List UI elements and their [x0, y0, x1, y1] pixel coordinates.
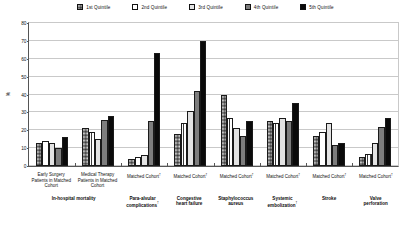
legend-item-3[interactable]: 3rd Quintile [189, 4, 223, 10]
legend-item-4[interactable]: 4th Quintile [245, 4, 278, 10]
y-tick-label: 70 [21, 38, 26, 43]
x-axis-label-line1: Matched Cohort† [359, 174, 393, 179]
legend-item-5[interactable]: 5th Quintile [300, 4, 333, 10]
x-axis-label-line1: Matched Cohort† [313, 174, 347, 179]
group-label-line1: In-hospital mortality [52, 196, 96, 201]
bar-group [167, 23, 213, 166]
group-label-line2: aureus [228, 201, 243, 206]
x-axis-label: Matched Cohort† [121, 172, 167, 189]
chart-legend: 1st Quintile2nd Quintile3rd Quintile4th … [0, 4, 411, 10]
legend-swatch-icon [132, 4, 138, 10]
legend-label: 4th Quintile [254, 5, 278, 10]
plot-area: 01020304050607080 [28, 22, 399, 167]
legend-item-1[interactable]: 1st Quintile [77, 4, 110, 10]
x-axis-group-label: Para-alvularcomplications† [119, 196, 166, 208]
bar-group [75, 23, 121, 166]
legend-label: 3rd Quintile [198, 5, 223, 10]
legend-swatch-icon [77, 4, 83, 10]
bar-group [306, 23, 352, 166]
x-axis-label: Medical TherapyPatients in MatchedCohort [74, 172, 120, 189]
x-axis-group-label: Congestiveheart failure [166, 196, 213, 208]
x-axis-label: Matched Cohort† [167, 172, 213, 189]
bar[interactable] [62, 137, 68, 166]
x-axis-label-line2: Patients in Matched [31, 178, 71, 183]
group-label-line1: Congestive [177, 196, 202, 201]
x-axis-label: Matched Cohort† [353, 172, 399, 189]
y-tick-label: 50 [21, 74, 26, 79]
bar[interactable] [154, 53, 160, 166]
y-tick-label: 60 [21, 56, 26, 61]
dagger-icon: † [296, 201, 298, 205]
legend-label: 1st Quintile [86, 5, 110, 10]
bar[interactable] [200, 41, 206, 166]
legend-swatch-icon [189, 4, 195, 10]
y-tick-label: 80 [21, 21, 26, 26]
group-label-line1: Systemic [272, 196, 292, 201]
bar[interactable] [385, 118, 391, 166]
y-tick-label: 40 [21, 92, 26, 97]
x-axis-label-line1: Medical Therapy [81, 172, 114, 177]
legend-label: 2nd Quintile [141, 5, 167, 10]
x-axis-label: Early SurgeryPatients in MatchedCohort [28, 172, 74, 189]
x-axis-label-line1: Early Surgery [38, 172, 65, 177]
bar-group [260, 23, 306, 166]
bar-groups [29, 23, 398, 166]
bar[interactable] [338, 143, 344, 166]
group-label-line1: Stroke [322, 196, 336, 201]
group-label-line2: heart failure [176, 201, 202, 206]
group-label-line2: embolization† [268, 203, 298, 208]
y-tick-mark [27, 166, 29, 167]
group-label-line1: Para-alvular [129, 196, 155, 201]
legend-swatch-icon [300, 4, 306, 10]
x-axis-label: Matched Cohort† [260, 172, 306, 189]
x-axis-group-label: Stroke [306, 196, 353, 208]
dagger-icon: † [298, 172, 300, 176]
group-label-line1: Valve [370, 196, 382, 201]
y-tick-label: 10 [21, 146, 26, 151]
plot-wrapper: % 01020304050607080 [0, 18, 411, 170]
bar-group [121, 23, 167, 166]
group-label-line2: complications† [126, 203, 159, 208]
dagger-icon: † [391, 172, 393, 176]
x-axis-label-line1: Matched Cohort† [127, 174, 161, 179]
x-axis-label: Matched Cohort† [214, 172, 260, 189]
x-axis-group-label: Staphylococcusaureus [213, 196, 260, 208]
x-axis-label-line3: Cohort [91, 183, 105, 188]
x-axis-labels: Early SurgeryPatients in MatchedCohortMe… [28, 172, 399, 189]
x-axis-label: Matched Cohort† [306, 172, 352, 189]
bar-chart: 1st Quintile2nd Quintile3rd Quintile4th … [0, 0, 411, 225]
y-tick-label: 20 [21, 128, 26, 133]
x-axis-label-line2: Patients in Matched [78, 178, 118, 183]
x-axis-label-line1: Matched Cohort† [173, 174, 207, 179]
group-label-line1: Staphylococcus [218, 196, 253, 201]
bar-group [352, 23, 398, 166]
dagger-icon: † [205, 172, 207, 176]
y-tick-label: 30 [21, 110, 26, 115]
x-axis-label-line1: Matched Cohort† [266, 174, 300, 179]
dagger-icon: † [252, 172, 254, 176]
bar[interactable] [292, 103, 298, 166]
x-axis-group-label: Systemicembolization† [259, 196, 306, 208]
bar[interactable] [246, 121, 252, 166]
y-axis-title: % [6, 92, 11, 96]
legend-item-2[interactable]: 2nd Quintile [132, 4, 167, 10]
x-axis-group-labels: In-hospital mortalityPara-alvularcomplic… [28, 196, 399, 208]
x-axis-label-line1: Matched Cohort† [220, 174, 254, 179]
x-axis-group-label: Valveperforation [352, 196, 399, 208]
dagger-icon: † [345, 172, 347, 176]
group-label-line2: perforation [364, 201, 388, 206]
legend-label: 5th Quintile [309, 5, 333, 10]
x-axis-group-label: In-hospital mortality [28, 196, 119, 208]
dagger-icon: † [157, 201, 159, 205]
x-axis-label-line3: Cohort [44, 183, 58, 188]
bar-group [29, 23, 75, 166]
bar-group [214, 23, 260, 166]
legend-swatch-icon [245, 4, 251, 10]
dagger-icon: † [159, 172, 161, 176]
bar[interactable] [108, 116, 114, 166]
